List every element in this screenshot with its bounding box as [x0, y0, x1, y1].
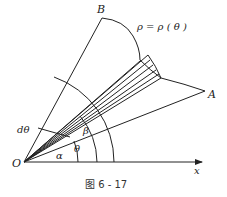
- ray-oa: [24, 91, 205, 162]
- angle-label-dtheta: dθ: [17, 124, 29, 135]
- point-label-b: B: [96, 3, 105, 16]
- point-label-o: O: [12, 157, 21, 170]
- hatch-line: [24, 74, 159, 162]
- angle-label-beta: β: [82, 125, 89, 136]
- point-label-a: A: [207, 88, 216, 101]
- polar-area-diagram: B ρ = ρ ( θ ) A O x α θ β dθ 图 6 - 17: [0, 0, 227, 197]
- ray-ob: [24, 18, 102, 162]
- figure-caption: 图 6 - 17: [85, 179, 127, 190]
- wedge-ray-lower: [24, 78, 161, 162]
- angle-label-theta: θ: [74, 143, 80, 154]
- angle-label-alpha: α: [56, 150, 63, 161]
- axis-label-x: x: [194, 165, 200, 176]
- hatch-line: [24, 60, 150, 162]
- hatch-line: [24, 65, 153, 162]
- ray-theta: [24, 61, 140, 162]
- hatch-line: [24, 70, 156, 162]
- curve-label: ρ = ρ ( θ ): [136, 21, 187, 32]
